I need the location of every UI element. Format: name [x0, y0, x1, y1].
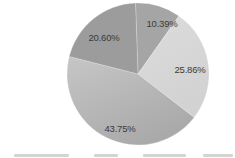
legend-item-4 — [203, 154, 233, 157]
legend-item-2 — [94, 154, 118, 157]
slice-label-2: 25.86% — [174, 64, 206, 75]
legend-item-1 — [14, 154, 69, 157]
slice-label-3: 43.75% — [104, 123, 136, 134]
slice-label-1: 10.39% — [146, 18, 178, 29]
pie-chart-canvas: 10.39%25.86%43.75%20.60% — [0, 0, 235, 158]
pie-chart: 10.39%25.86%43.75%20.60% — [0, 0, 235, 158]
legend-truncated — [0, 151, 235, 158]
slice-label-4: 20.60% — [88, 32, 120, 43]
legend-item-3 — [143, 154, 186, 157]
